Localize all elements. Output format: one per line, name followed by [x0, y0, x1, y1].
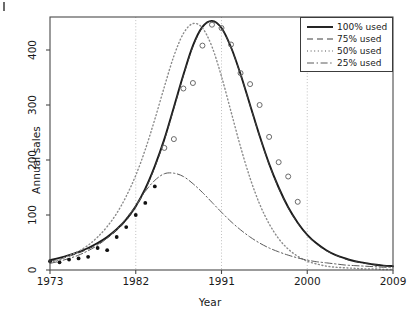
y-tick-label-400: 400	[26, 38, 38, 62]
legend-item-label: 75% used	[335, 34, 382, 44]
data-point	[105, 248, 109, 252]
axis-ticks-group	[46, 50, 393, 274]
data-point	[86, 255, 90, 259]
y-tick-label-200: 200	[26, 148, 38, 172]
x-tick-label-1991: 1991	[208, 275, 235, 287]
data-point	[115, 235, 119, 239]
y-tick-label-300: 300	[26, 93, 38, 117]
data-point	[276, 160, 281, 165]
data-point	[171, 137, 176, 142]
data-point	[295, 199, 300, 204]
data-point	[286, 174, 291, 179]
data-point	[162, 145, 167, 150]
data-point	[96, 246, 100, 250]
data-point	[67, 258, 71, 262]
legend-item-1: 100% used	[301, 21, 392, 33]
dashed-line-key	[305, 33, 335, 45]
data-point	[134, 213, 138, 217]
x-tick-label-1973: 1973	[37, 275, 64, 287]
data-point	[200, 43, 205, 48]
y-tick-label-0: 0	[26, 258, 38, 282]
data-point	[248, 82, 253, 87]
data-point	[190, 81, 195, 86]
data-point	[58, 260, 62, 264]
data-point	[209, 22, 214, 27]
data-point	[257, 103, 262, 108]
solid-line-key	[305, 21, 335, 33]
x-tick-label-2000: 2000	[294, 275, 321, 287]
x-tick-label-2009: 2009	[380, 275, 407, 287]
legend-item-label: 50% used	[335, 46, 382, 56]
y-tick-label-100: 100	[26, 203, 38, 227]
data-point	[124, 225, 128, 229]
dashdot-line-key	[305, 57, 335, 69]
chart-figure: Annual sales Year 19731982199120002009 0…	[0, 0, 420, 320]
data-point	[267, 134, 272, 139]
legend-item-3: 50% used	[301, 45, 392, 57]
data-point	[143, 201, 147, 205]
data-point	[153, 185, 157, 189]
x-tick-label-1982: 1982	[122, 275, 149, 287]
data-point	[181, 86, 186, 91]
data-point	[77, 257, 81, 261]
gridlines-group	[136, 17, 308, 270]
legend-item-label: 25% used	[335, 58, 382, 68]
chart-legend: 100% used75% used50% used25% used	[300, 17, 393, 72]
legend-item-2: 75% used	[301, 33, 392, 45]
dotted-line-key	[305, 45, 335, 57]
legend-item-label: 100% used	[335, 22, 387, 32]
x-axis-title: Year	[0, 296, 420, 308]
legend-item-4: 25% used	[301, 57, 392, 69]
